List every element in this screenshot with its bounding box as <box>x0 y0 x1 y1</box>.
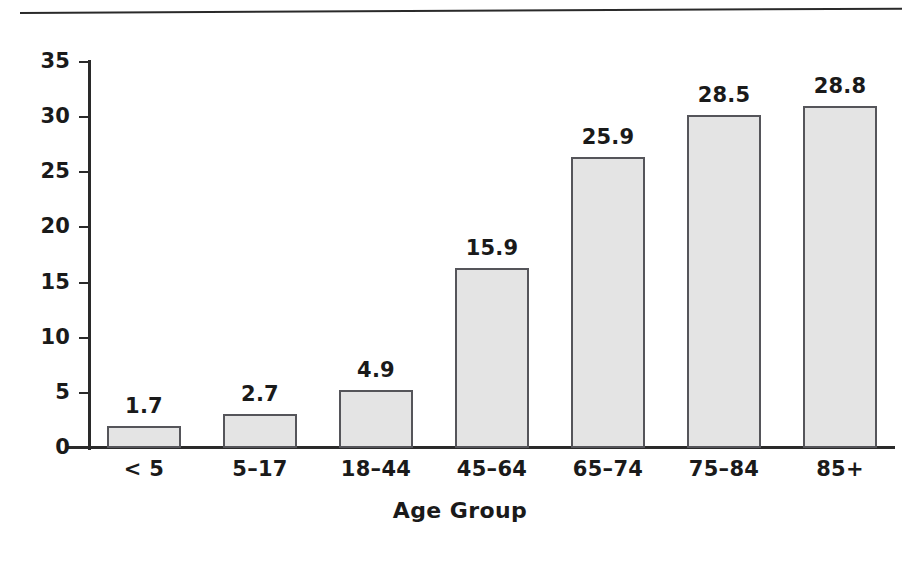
y-axis-tick-mark <box>79 337 91 339</box>
x-axis-category-label: < 5 <box>84 459 204 480</box>
bar-chart: 05101520253035 1.72.74.915.925.928.528.8… <box>0 0 920 565</box>
bar <box>455 268 529 448</box>
bar <box>223 414 297 448</box>
y-axis-tick-mark <box>79 226 91 228</box>
bar <box>803 106 877 448</box>
y-axis-tick-mark <box>79 447 91 449</box>
bar <box>687 115 761 448</box>
y-axis-tick-label-text: 30 <box>26 106 70 127</box>
x-axis-category-label: 75–84 <box>664 459 784 480</box>
bar-value-label: 28.5 <box>664 85 784 106</box>
bar-value-label: 4.9 <box>316 360 436 381</box>
bar-value-label: 2.7 <box>200 384 320 405</box>
y-axis-tick-mark <box>79 61 91 63</box>
x-axis-category-label: 18–44 <box>316 459 436 480</box>
y-axis-tick-mark <box>79 171 91 173</box>
y-axis-tick-label-text: 25 <box>26 161 70 182</box>
y-axis-tick-mark <box>79 116 91 118</box>
y-axis-tick-label-text: 15 <box>26 272 70 293</box>
bar-value-label: 25.9 <box>548 127 668 148</box>
bar <box>571 157 645 448</box>
bar-value-label: 1.7 <box>84 396 204 417</box>
x-axis-category-label: 65–74 <box>548 459 668 480</box>
y-axis-tick-mark <box>79 282 91 284</box>
bar <box>107 426 181 448</box>
bar-value-label: 28.8 <box>780 76 900 97</box>
x-axis-title: Age Group <box>0 498 920 523</box>
y-axis-tick-label-text: 0 <box>26 437 70 458</box>
bar-value-label: 15.9 <box>432 238 552 259</box>
y-axis-tick-label-text: 10 <box>26 327 70 348</box>
y-axis-tick-label-text: 5 <box>26 382 70 403</box>
x-axis-category-label: 45–64 <box>432 459 552 480</box>
x-axis-category-label: 5–17 <box>200 459 320 480</box>
bar <box>339 390 413 448</box>
x-axis-category-label: 85+ <box>780 459 900 480</box>
y-axis-tick-mark <box>79 392 91 394</box>
y-axis-tick-label-text: 20 <box>26 216 70 237</box>
y-axis-tick-label-text: 35 <box>26 51 70 72</box>
